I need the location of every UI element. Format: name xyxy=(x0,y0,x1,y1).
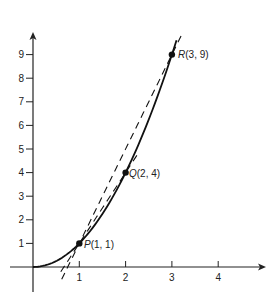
y-tick-label: 5 xyxy=(18,144,24,155)
point-label-q: Q(2, 4) xyxy=(129,168,160,179)
point-q-marker xyxy=(122,169,128,175)
y-tick-label: 8 xyxy=(18,73,24,84)
y-tick-label: 1 xyxy=(18,238,24,249)
y-tick-label: 4 xyxy=(18,167,24,178)
y-tick-label: 6 xyxy=(18,120,24,131)
y-tick-label: 2 xyxy=(18,214,24,225)
chart: 1234 123456789 P(1, 1) Q(2, 4) R(3, 9) xyxy=(0,0,277,298)
y-tick-label: 3 xyxy=(18,191,24,202)
x-tick-label: 4 xyxy=(215,272,221,283)
point-p-marker xyxy=(76,240,82,246)
point-r-marker xyxy=(169,51,175,57)
axes xyxy=(10,36,262,292)
x-tick-label: 1 xyxy=(77,272,83,283)
secant-pq-line xyxy=(61,151,140,271)
x-tick-label: 3 xyxy=(169,272,175,283)
y-tick-label: 9 xyxy=(18,49,24,60)
x-tick-label: 2 xyxy=(123,272,129,283)
point-label-r: R(3, 9) xyxy=(178,49,209,60)
y-ticks: 123456789 xyxy=(18,49,33,249)
curve-y-x-2-line xyxy=(33,40,177,267)
x-ticks: 1234 xyxy=(77,261,222,283)
point-label-p: P(1, 1) xyxy=(84,239,114,250)
y-tick-label: 7 xyxy=(18,96,24,107)
